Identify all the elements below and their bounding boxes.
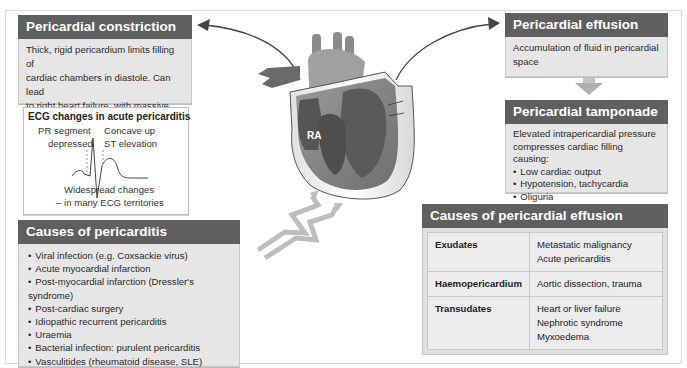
effusion-text-line: space [513, 55, 660, 69]
ecg-bottom-label: – in many ECG territories [56, 197, 164, 208]
tamponade-item: Oliguria [513, 191, 660, 204]
pericarditis-cause-item: Post-cardiac surgery [28, 302, 230, 315]
pericarditis-cause-item: Acute myocardial infarction [28, 262, 230, 275]
cause-values: Heart or liver failure Nephrotic syndrom… [529, 297, 662, 350]
cause-values: Metastatic malignancy Acute pericarditis [529, 233, 662, 272]
constriction-panel: Pericardial constriction Thick, rigid pe… [18, 15, 192, 104]
cause-value: Heart or liver failure [537, 302, 655, 316]
lightning-arrows-icon [258, 190, 343, 258]
tamponade-text-line: compresses cardiac filling causing: [513, 141, 660, 166]
tamponade-text-line: Elevated intrapericardial pressure [513, 128, 660, 141]
ecg-st-label: ST elevation [104, 138, 157, 149]
cause-category: Haemopericardium [428, 272, 530, 297]
ecg-pr-label: PR segment [38, 125, 91, 136]
tamponade-item: Low cardiac output [513, 166, 660, 179]
pericarditis-cause-item: Bacterial infection: purulent pericardit… [28, 341, 230, 354]
effusion-text-line: Accumulation of fluid in pericardial [513, 41, 660, 55]
ecg-title: ECG changes in acute pericarditis [28, 111, 190, 122]
cause-value: Myxoedema [537, 330, 655, 344]
effusion-causes-title: Causes of pericardial effusion [422, 204, 668, 228]
pericarditis-cause-item: Post-myocardial infarction (Dressler's s… [28, 275, 230, 301]
table-row: Haemopericardium Aortic dissection, trau… [428, 272, 663, 297]
ecg-bottom-label: Widespread changes [64, 184, 154, 195]
cause-value: Aortic dissection, trauma [537, 277, 655, 291]
pericarditis-panel: Causes of pericarditis Viral infection (… [18, 220, 240, 367]
cause-values: Aortic dissection, trauma [529, 272, 662, 297]
pericarditis-title: Causes of pericarditis [18, 220, 240, 244]
tamponade-panel: Pericardial tamponade Elevated intraperi… [505, 100, 668, 193]
cause-value: Metastatic malignancy [537, 238, 655, 252]
heart-label-ra: RA [307, 130, 321, 141]
tamponade-item: Hypotension, tachycardia [513, 178, 660, 191]
cause-value: Acute pericarditis [537, 252, 655, 266]
constriction-text-line: cardiac chambers in diastole. Can lead [26, 71, 184, 99]
effusion-causes-table: Exudates Metastatic malignancy Acute per… [427, 232, 663, 350]
arrow-to-effusion [396, 17, 500, 80]
effusion-panel: Pericardial effusion Accumulation of flu… [505, 13, 668, 77]
effusion-causes-panel: Causes of pericardial effusion Exudates … [422, 204, 668, 355]
table-row: Exudates Metastatic malignancy Acute per… [428, 233, 663, 272]
table-row: Transudates Heart or liver failure Nephr… [428, 297, 663, 350]
tamponade-title: Pericardial tamponade [505, 100, 668, 124]
pericarditis-cause-item: Idiopathic recurrent pericarditis [28, 315, 230, 328]
ecg-pr-label: depressed [48, 138, 93, 149]
cause-category: Transudates [428, 297, 530, 350]
pericarditis-cause-item: Uraemia [28, 328, 230, 341]
cause-category: Exudates [428, 233, 530, 272]
heart-icon [258, 32, 414, 199]
cause-value: Nephrotic syndrome [537, 316, 655, 330]
pericarditis-cause-item: Vasculitides (rheumatoid disease, SLE) [28, 355, 230, 368]
pericarditis-cause-item: Viral infection (e.g. Coxsackie virus) [28, 249, 230, 262]
ecg-st-label: Concave up [104, 125, 155, 136]
constriction-title: Pericardial constriction [18, 15, 192, 39]
ecg-panel: ECG changes in acute pericarditis PR seg… [23, 107, 189, 215]
constriction-text-line: Thick, rigid pericardium limits filling … [26, 43, 184, 71]
effusion-title: Pericardial effusion [505, 13, 668, 37]
